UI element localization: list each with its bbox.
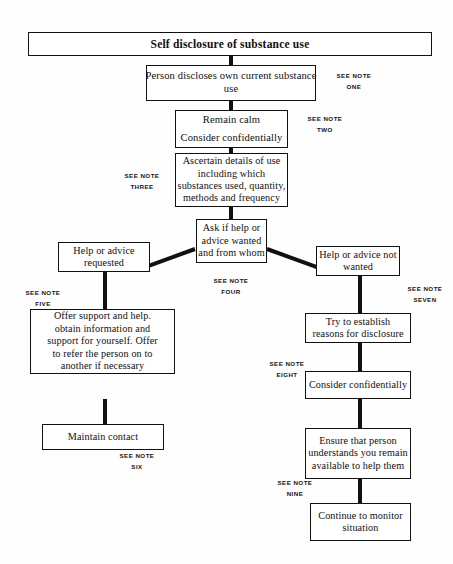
node-ensure-person: Ensure that person understands you remai…: [305, 428, 411, 479]
note-five-value: FIVE: [14, 299, 72, 310]
connector-ask-to-requested: [147, 247, 195, 268]
node-help-requested-line1: Help or advice: [73, 245, 134, 257]
note-nine-prefix: SEE NOTE: [266, 478, 324, 489]
node-offer-support-line5: another if necessary: [61, 360, 144, 372]
note-four: SEE NOTE FOUR: [202, 276, 260, 298]
node-ascertain-line4: methods and frequency: [183, 192, 280, 204]
node-continue-monitor-line1: Continue to monitor: [318, 510, 403, 522]
note-seven-value: SEVEN: [396, 295, 453, 306]
node-help-not-wanted-line2: wanted: [343, 261, 373, 273]
note-two: SEE NOTE TWO: [296, 114, 354, 136]
node-person-discloses: Person discloses own current substance u…: [146, 65, 316, 101]
connector-ascertain-to-ask: [229, 206, 233, 220]
note-eight-value: EIGHT: [258, 370, 316, 381]
node-title-line1: Self disclosure of substance use: [151, 37, 310, 51]
note-one: SEE NOTE ONE: [325, 71, 383, 93]
node-offer-support-line1: Offer support and help.: [54, 310, 151, 322]
note-two-prefix: SEE NOTE: [296, 114, 354, 125]
note-seven-prefix: SEE NOTE: [396, 284, 453, 295]
note-four-value: FOUR: [202, 287, 260, 298]
node-ensure-person-line3: available to help them: [312, 460, 404, 472]
note-one-prefix: SEE NOTE: [325, 71, 383, 82]
node-ascertain-line2: including which: [198, 168, 265, 180]
note-seven: SEE NOTE SEVEN: [396, 284, 453, 306]
node-person-discloses-line1: Person discloses own current substance: [146, 70, 317, 83]
note-eight: SEE NOTE EIGHT: [258, 359, 316, 381]
node-consider-confidentially-line1: Consider confidentially: [309, 379, 407, 391]
node-offer-support-line2: obtain information and: [55, 323, 151, 335]
node-ensure-person-line1: Ensure that person: [319, 435, 397, 447]
node-offer-support-line3: support for yourself. Offer: [47, 335, 158, 347]
note-five-prefix: SEE NOTE: [14, 288, 72, 299]
note-two-value: TWO: [296, 125, 354, 136]
note-five: SEE NOTE FIVE: [14, 288, 72, 310]
node-offer-support-line4: to refer the person on to: [52, 348, 152, 360]
note-six-prefix: SEE NOTE: [108, 451, 166, 462]
node-help-requested: Help or advice requested: [58, 242, 150, 272]
connector-notwanted-to-try: [358, 276, 362, 314]
node-ensure-person-line2: understands you remain: [308, 447, 408, 459]
connector-offer-to-maintain: [103, 399, 107, 425]
note-three: SEE NOTE THREE: [113, 171, 171, 193]
note-three-prefix: SEE NOTE: [113, 171, 171, 182]
node-ask-line2: advice wanted: [202, 235, 262, 247]
node-ascertain-details: Ascertain details of use including which…: [175, 153, 288, 207]
note-four-prefix: SEE NOTE: [202, 276, 260, 287]
connector-requested-to-offer: [103, 270, 107, 310]
node-help-requested-line2: requested: [84, 257, 124, 269]
node-ask-line1: Ask if help or: [203, 222, 261, 234]
node-consider-confidentially: Consider confidentially: [305, 371, 411, 399]
node-maintain-contact: Maintain contact: [42, 424, 164, 450]
node-continue-monitor: Continue to monitor situation: [310, 503, 411, 541]
node-help-not-wanted: Help or advice not wanted: [316, 246, 400, 276]
node-remain-calm: Remain calm Consider confidentially: [175, 110, 288, 148]
node-remain-calm-line2: Consider confidentially: [180, 132, 282, 145]
node-offer-support: Offer support and help. obtain informati…: [30, 309, 175, 374]
note-six-value: SIX: [108, 462, 166, 473]
node-ascertain-line3: substances used, quantity,: [178, 180, 286, 192]
note-nine-value: NINE: [266, 489, 324, 500]
node-ask-line3: and from whom: [198, 247, 264, 259]
connector-ask-to-not-wanted: [266, 247, 320, 270]
node-maintain-contact-line1: Maintain contact: [68, 431, 138, 443]
node-remain-calm-line1: Remain calm: [203, 114, 260, 127]
node-ascertain-line1: Ascertain details of use: [183, 155, 281, 167]
note-three-value: THREE: [113, 182, 171, 193]
note-eight-prefix: SEE NOTE: [258, 359, 316, 370]
node-continue-monitor-line2: situation: [343, 522, 379, 534]
node-help-not-wanted-line1: Help or advice not: [319, 249, 396, 261]
node-person-discloses-line2: use: [224, 83, 238, 96]
node-title: Self disclosure of substance use: [28, 32, 432, 56]
node-try-establish: Try to establish reasons for disclosure: [305, 313, 411, 343]
flowchart-canvas: Self disclosure of substance use Person …: [0, 0, 453, 564]
connector-consider-to-ensure: [358, 399, 362, 429]
node-ask-if-help: Ask if help or advice wanted and from wh…: [196, 219, 267, 263]
node-try-establish-line1: Try to establish: [326, 316, 391, 328]
note-nine: SEE NOTE NINE: [266, 478, 324, 500]
connector-try-to-consider: [358, 343, 362, 372]
note-one-value: ONE: [325, 82, 383, 93]
connector-ensure-to-continue: [358, 479, 362, 504]
note-six: SEE NOTE SIX: [108, 451, 166, 473]
node-try-establish-line2: reasons for disclosure: [312, 328, 403, 340]
